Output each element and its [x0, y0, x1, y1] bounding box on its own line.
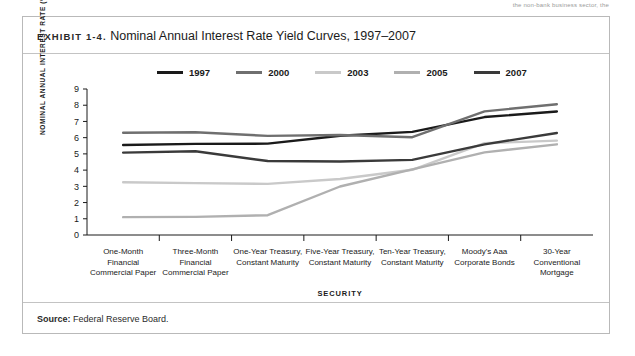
source-note: Source: Federal Reserve Board.: [37, 314, 169, 324]
legend-item-2005: 2005: [394, 67, 447, 78]
legend-item-2000: 2000: [236, 67, 289, 78]
chart-area: 19972000200320052007 NOMINAL ANNUAL INTE…: [37, 61, 597, 297]
x-tick-label: Five-Year Treasury,Constant Maturity: [304, 247, 376, 279]
source-label: Source:: [37, 314, 71, 324]
x-tick-label: Ten-Year Treasury,Constant Maturity: [376, 247, 448, 279]
x-tick-label: Moody's AaaCorporate Bonds: [448, 247, 520, 279]
series-line-2005: [123, 144, 557, 217]
legend-swatch-icon: [394, 71, 420, 74]
x-tick-line: Constant Maturity: [376, 258, 448, 269]
legend-label: 2005: [426, 67, 447, 78]
y-tick-label: 2: [74, 198, 79, 208]
y-tick-label: 4: [74, 165, 79, 175]
x-tick-line: Mortgage: [521, 268, 593, 279]
x-tick-line: One-Year Treasury,: [232, 247, 304, 258]
y-tick-label: 3: [74, 182, 79, 192]
legend-label: 2007: [506, 67, 527, 78]
y-tick-label: 9: [74, 84, 79, 94]
y-axis-title: NOMINAL ANNUAL INTEREST RATE (%): [39, 0, 46, 135]
x-tick-line: Moody's Aaa: [448, 247, 520, 258]
x-tick-line: Commercial Paper: [87, 268, 159, 279]
x-tick-label: One-MonthFinancialCommercial Paper: [87, 247, 159, 279]
legend-swatch-icon: [236, 71, 262, 74]
y-tick-label: 8: [74, 100, 79, 110]
source-text: Federal Reserve Board.: [73, 314, 169, 324]
x-tick-line: 30-Year: [521, 247, 593, 258]
x-tick-line: Ten-Year Treasury,: [376, 247, 448, 258]
legend-item-2003: 2003: [315, 67, 368, 78]
y-tick-label: 6: [74, 133, 79, 143]
x-tick-label: 30-YearConventionalMortgage: [521, 247, 593, 279]
screenshot-root: the non-bank business sector, the EXHIBI…: [0, 0, 635, 356]
series-line-2000: [123, 104, 557, 137]
x-tick-line: Constant Maturity: [232, 258, 304, 269]
y-tick-label: 0: [74, 230, 79, 240]
x-axis-title: SECURITY: [87, 289, 593, 298]
x-tick-label: One-Year Treasury,Constant Maturity: [232, 247, 304, 279]
exhibit-label: EXHIBIT 1-4.: [37, 31, 107, 42]
x-tick-line: Corporate Bonds: [448, 258, 520, 269]
legend-item-2007: 2007: [474, 67, 527, 78]
legend-label: 2000: [268, 67, 289, 78]
legend-swatch-icon: [315, 71, 341, 74]
line-chart-svg: 0123456789: [37, 61, 597, 251]
exhibit-header: EXHIBIT 1-4. Nominal Annual Interest Rat…: [37, 29, 416, 43]
series-line-2007: [123, 133, 557, 162]
legend-swatch-icon: [157, 71, 183, 74]
x-tick-line: Constant Maturity: [304, 258, 376, 269]
header-divider: [23, 53, 609, 54]
y-tick-label: 1: [74, 214, 79, 224]
x-axis-tick-labels: One-MonthFinancialCommercial PaperThree-…: [87, 247, 593, 279]
x-tick-line: Three-Month: [159, 247, 231, 258]
legend-swatch-icon: [474, 71, 500, 74]
x-tick-line: Financial: [159, 258, 231, 269]
exhibit-panel: EXHIBIT 1-4. Nominal Annual Interest Rat…: [22, 16, 610, 334]
page-top-note: the non-bank business sector, the: [513, 2, 609, 8]
chart-legend: 19972000200320052007: [157, 67, 527, 78]
y-tick-label: 7: [74, 117, 79, 127]
x-tick-line: One-Month: [87, 247, 159, 258]
y-tick-label: 5: [74, 149, 79, 159]
page-title: Nominal Annual Interest Rate Yield Curve…: [110, 29, 416, 43]
legend-item-1997: 1997: [157, 67, 210, 78]
x-tick-line: Five-Year Treasury,: [304, 247, 376, 258]
x-tick-line: Commercial Paper: [159, 268, 231, 279]
footer-divider: [23, 302, 609, 303]
x-tick-line: Financial: [87, 258, 159, 269]
x-tick-line: Conventional: [521, 258, 593, 269]
legend-label: 2003: [347, 67, 368, 78]
legend-label: 1997: [189, 67, 210, 78]
series-line-1997: [123, 112, 557, 145]
x-tick-label: Three-MonthFinancialCommercial Paper: [159, 247, 231, 279]
